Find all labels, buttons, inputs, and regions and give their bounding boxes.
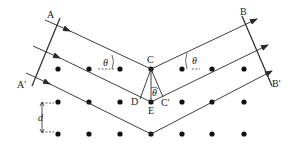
label-c: C: [147, 54, 154, 65]
label-e: E: [148, 105, 154, 116]
rays: [26, 19, 272, 134]
label-b: B: [240, 6, 247, 17]
label-a: A: [47, 9, 55, 20]
label-d-spacing: d: [38, 112, 44, 123]
label-a-prime: A': [17, 79, 26, 90]
label-theta-incident: θ: [103, 57, 108, 68]
label-theta-reflected: θ: [192, 55, 197, 66]
label-b-prime: B': [272, 78, 281, 89]
label-theta-center: θ: [152, 87, 157, 98]
label-c-prime: C': [161, 97, 170, 108]
wavefront-b: [242, 16, 272, 86]
label-d: D: [131, 96, 138, 107]
bragg-diagram: A A' B B' C D E C' θ θ θ d: [0, 0, 295, 149]
wavefront-a: [32, 18, 60, 86]
